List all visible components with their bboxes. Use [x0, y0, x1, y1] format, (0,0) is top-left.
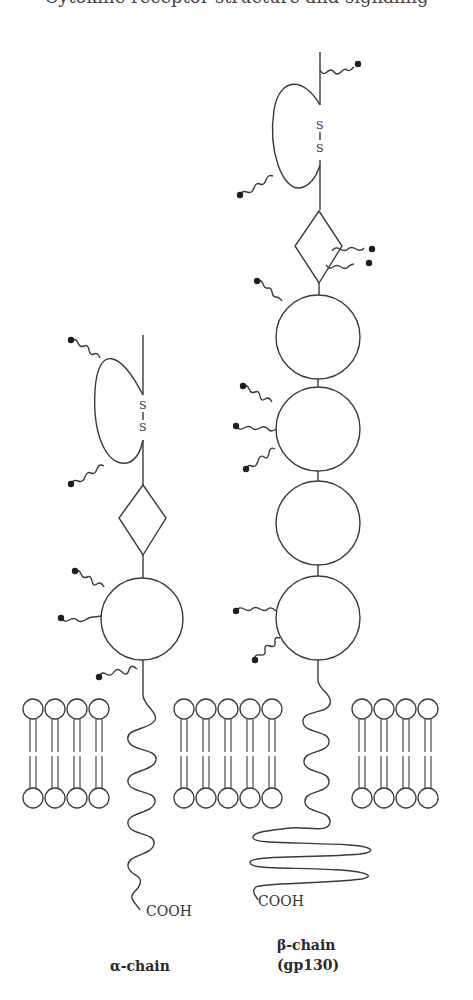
disulfide-s-top: S	[139, 399, 147, 412]
lipid	[374, 699, 394, 808]
glycosylation-site	[68, 465, 104, 487]
lipid	[396, 699, 416, 808]
disulfide-s-bottom: S	[139, 421, 147, 434]
glycosylation-site	[243, 448, 275, 472]
receptor-diagram: S S COOH S S	[0, 0, 473, 1000]
lipid	[240, 699, 260, 808]
lipid	[352, 699, 372, 808]
alpha-chain: S S COOH	[58, 335, 192, 919]
disulfide-s-top: S	[316, 119, 324, 132]
beta-circle-domain-2	[276, 387, 360, 471]
lipid	[418, 699, 438, 808]
glycosylation-site	[252, 638, 280, 664]
beta-chain-label: β-chain	[277, 937, 335, 953]
membrane-right-group	[352, 699, 438, 808]
lipid	[218, 699, 238, 808]
beta-circle-domain-4	[276, 576, 360, 660]
glycosylation-site	[72, 568, 104, 587]
lipid	[196, 699, 216, 808]
beta-cooh-terminus: COOH	[258, 893, 304, 909]
glycosylation-site	[254, 278, 282, 301]
alpha-circle-domain	[101, 578, 183, 660]
alpha-chain-label: α-chain	[110, 958, 170, 974]
membrane-left-group	[23, 699, 109, 808]
disulfide-s-bottom: S	[316, 142, 324, 155]
glycosylation-site	[233, 608, 276, 615]
alpha-loop-domain	[95, 359, 143, 464]
lipid	[45, 699, 65, 808]
glycosylation-site	[237, 176, 273, 199]
glycosylation-site	[68, 337, 100, 358]
lipid	[67, 699, 87, 808]
lipid	[89, 699, 109, 808]
lipid	[174, 699, 194, 808]
lipid	[23, 699, 43, 808]
beta-loop-domain	[273, 84, 320, 188]
glycosylation-site	[240, 383, 272, 402]
beta-diamond-domain	[295, 211, 342, 283]
beta-circle-domain-3	[276, 481, 360, 565]
beta-circle-domain-1	[276, 295, 360, 379]
alpha-cytoplasmic-tail	[128, 695, 156, 910]
glycosylation-site	[96, 666, 137, 680]
glycosylation-site	[320, 61, 361, 74]
membrane-middle-group	[174, 699, 282, 808]
beta-chain-sublabel: (gp130)	[277, 957, 339, 973]
beta-chain: S S COOH	[233, 52, 375, 909]
lipid	[262, 699, 282, 808]
alpha-diamond-domain	[119, 485, 166, 555]
glycosylation-site	[233, 423, 276, 431]
alpha-cooh-terminus: COOH	[146, 903, 192, 919]
glycosylation-site	[58, 615, 101, 622]
